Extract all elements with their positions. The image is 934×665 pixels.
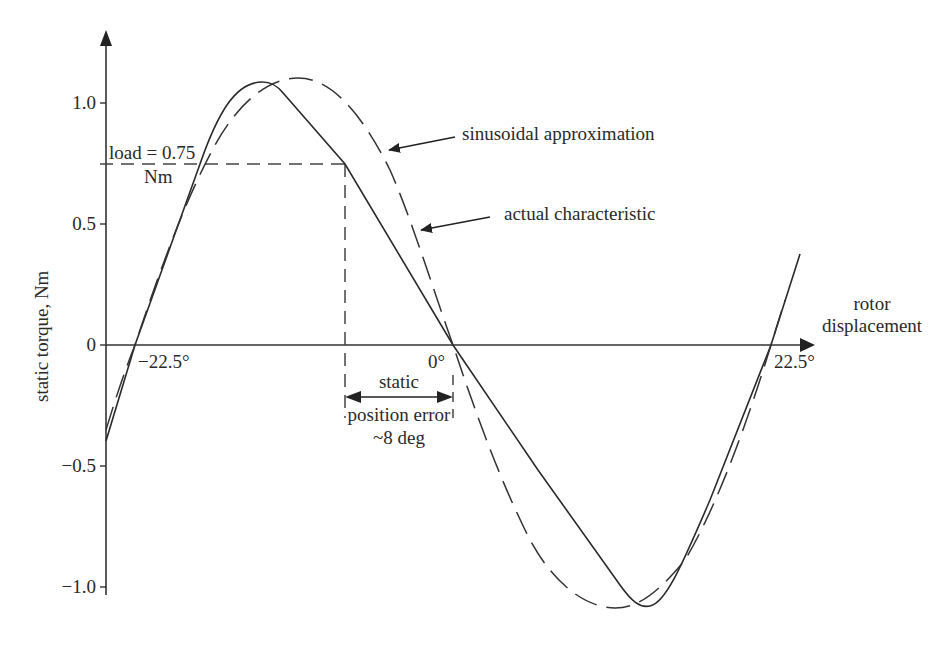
sinusoidal-pointer-arrow [389,137,455,150]
position-error-arrow [345,391,453,403]
torque-diagram [0,0,934,665]
y-tick-minus-0-5: −0.5 [36,456,96,476]
y-tick-1: 1.0 [36,93,96,113]
actual-pointer-arrow [421,217,490,230]
x-axis-label-line2: displacement [812,316,932,336]
sinusoidal-approximation-label: sinusoidal approximation [462,124,655,144]
x-axis [106,338,815,352]
position-error-label-line1: static [349,372,449,392]
position-error-label-line2: position error [334,405,464,425]
position-error-label-line3: ~8 deg [349,428,449,448]
actual-characteristic-label: actual characteristic [504,204,655,224]
x-tick-minus-22-5: −22.5° [138,352,190,372]
x-tick-0: 0° [428,352,445,372]
y-tick-0: 0 [36,335,96,355]
x-tick-22-5: 22.5° [774,352,815,372]
x-axis-arrow-icon [800,338,815,352]
load-label: load = 0.75 [109,143,195,163]
load-unit-label: Nm [144,167,173,187]
y-axis [100,30,112,595]
x-axis-label-line1: rotor [822,294,922,314]
y-tick-minus-1: −1.0 [36,577,96,597]
actual-characteristic-curve [106,82,800,606]
sinusoidal-approximation-curve [106,78,785,608]
y-axis-arrow-icon [100,30,112,46]
y-tick-0-5: 0.5 [36,214,96,234]
